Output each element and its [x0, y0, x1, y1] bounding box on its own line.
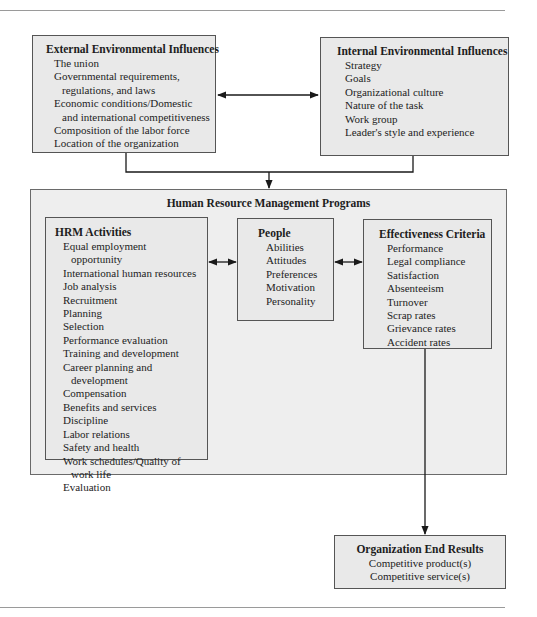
list-item: Grievance rates	[377, 322, 491, 335]
list-item: Benefits and services	[53, 401, 207, 414]
hrm-activities-title: HRM Activities	[55, 225, 207, 240]
list-item: Legal compliance	[377, 255, 491, 268]
list-item: Job analysis	[53, 280, 207, 293]
list-item: Satisfaction	[377, 269, 491, 282]
list-item: Economic conditions/Domesticand internat…	[44, 97, 215, 124]
list-item: Evaluation	[53, 481, 207, 494]
external-influences-box: External Environmental Influences The un…	[32, 35, 216, 153]
list-item: Absenteeism	[377, 282, 491, 295]
end-results-title: Organization End Results	[335, 542, 505, 557]
effectiveness-criteria-box: Effectiveness Criteria Performance Legal…	[363, 219, 492, 349]
effectiveness-criteria-title: Effectiveness Criteria	[379, 227, 491, 242]
list-item: Safety and health	[53, 441, 207, 454]
list-item: Location of the organization	[44, 137, 215, 150]
effectiveness-criteria-list: Performance Legal compliance Satisfactio…	[377, 242, 491, 349]
list-item: The union	[44, 57, 215, 70]
list-item: Training and development	[53, 347, 207, 360]
list-item: International human resources	[53, 267, 207, 280]
people-list: Abilities Attitudes Preferences Motivati…	[256, 241, 333, 308]
list-item: Work schedules/Quality ofwork life	[53, 455, 207, 482]
internal-influences-title: Internal Environmental Influences	[337, 44, 508, 59]
list-item: Attitudes	[256, 254, 333, 267]
list-item: Performance	[377, 242, 491, 255]
list-item: Career planning anddevelopment	[53, 361, 207, 388]
list-item: Competitive service(s)	[335, 570, 505, 583]
list-item: Composition of the labor force	[44, 124, 215, 137]
list-item: Personality	[256, 295, 333, 308]
list-item: Motivation	[256, 281, 333, 294]
list-item: Selection	[53, 320, 207, 333]
external-influences-list: The union Governmental requirements,regu…	[44, 57, 215, 151]
list-item: Planning	[53, 307, 207, 320]
list-item: Recruitment	[53, 294, 207, 307]
list-item: Scrap rates	[377, 309, 491, 322]
hrm-programs-title: Human Resource Management Programs	[31, 196, 506, 211]
list-item: Work group	[335, 113, 508, 126]
list-item: Nature of the task	[335, 99, 508, 112]
list-item: Compensation	[53, 387, 207, 400]
people-title: People	[258, 226, 333, 241]
list-item: Strategy	[335, 59, 508, 72]
bottom-rule	[0, 607, 505, 608]
internal-influences-box: Internal Environmental Influences Strate…	[320, 37, 509, 156]
list-item: Goals	[335, 72, 508, 85]
external-influences-title: External Environmental Influences	[46, 42, 215, 57]
list-item: Abilities	[256, 241, 333, 254]
end-results-box: Organization End Results Competitive pro…	[334, 535, 506, 589]
list-item: Discipline	[53, 414, 207, 427]
top-rule	[0, 10, 505, 11]
list-item: Preferences	[256, 268, 333, 281]
end-results-list: Competitive product(s) Competitive servi…	[335, 557, 505, 584]
list-item: Leader's style and experience	[335, 126, 508, 139]
list-item: Performance evaluation	[53, 334, 207, 347]
list-item: Governmental requirements,regulations, a…	[44, 70, 215, 97]
internal-influences-list: Strategy Goals Organizational culture Na…	[335, 59, 508, 139]
list-item: Turnover	[377, 296, 491, 309]
list-item: Accident rates	[377, 336, 491, 349]
people-box: People Abilities Attitudes Preferences M…	[237, 218, 334, 321]
hrm-activities-list: Equal employmentopportunity Internationa…	[53, 240, 207, 495]
list-item: Labor relations	[53, 428, 207, 441]
hrm-activities-box: HRM Activities Equal employmentopportuni…	[45, 217, 208, 460]
list-item: Competitive product(s)	[335, 557, 505, 570]
list-item: Equal employmentopportunity	[53, 240, 207, 267]
list-item: Organizational culture	[335, 86, 508, 99]
